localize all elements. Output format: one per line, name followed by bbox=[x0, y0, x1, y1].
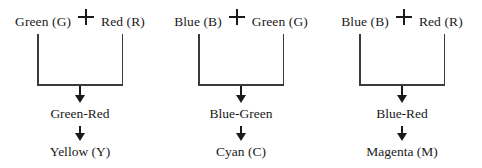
bracket-leg-right bbox=[444, 34, 446, 86]
bracket-leg-left bbox=[37, 34, 39, 86]
plus-icon bbox=[76, 8, 96, 26]
bracket-leg-right bbox=[283, 34, 285, 86]
color-mixing-diagram: Green (G) Red (R) Green-Red Yellow (Y) B… bbox=[0, 0, 482, 168]
arrow-down-icon-to-intermediate bbox=[73, 86, 87, 103]
intermediate-label: Green-Red bbox=[50, 105, 109, 123]
bracket-leg-left bbox=[198, 34, 200, 86]
inputs-row: Blue (B) Red (R) bbox=[341, 8, 463, 34]
result-label: Cyan (C) bbox=[216, 143, 266, 161]
arrow-head bbox=[236, 95, 246, 103]
plus-icon bbox=[394, 8, 414, 26]
arrow-down-icon-to-result bbox=[234, 126, 248, 142]
arrow-down-icon-to-intermediate bbox=[395, 86, 409, 103]
bracket-leg-right bbox=[122, 34, 124, 86]
arrow-down-icon-to-intermediate bbox=[234, 86, 248, 103]
merge-bracket bbox=[0, 34, 160, 86]
input-label-right: Red (R) bbox=[419, 13, 463, 31]
input-label-right: Red (R) bbox=[101, 13, 145, 31]
color-mix-group-blue-red-magenta: Blue (B) Red (R) Blue-Red Magenta (M) bbox=[322, 0, 482, 168]
inputs-row: Blue (B) Green (G) bbox=[174, 8, 308, 34]
input-label-left: Blue (B) bbox=[341, 13, 389, 31]
arrow-down-icon-to-result bbox=[395, 126, 409, 142]
merge-bracket bbox=[322, 34, 482, 86]
inputs-row: Green (G) Red (R) bbox=[15, 8, 145, 34]
arrow-head bbox=[75, 133, 85, 141]
bracket-leg-left bbox=[359, 34, 361, 86]
arrow-head bbox=[75, 95, 85, 103]
merge-bracket bbox=[161, 34, 321, 86]
input-label-left: Green (G) bbox=[15, 13, 71, 31]
plus-icon bbox=[227, 8, 247, 26]
result-label: Magenta (M) bbox=[366, 143, 438, 161]
color-mix-group-green-red-yellow: Green (G) Red (R) Green-Red Yellow (Y) bbox=[0, 0, 160, 168]
input-label-right: Green (G) bbox=[252, 13, 308, 31]
intermediate-label: Blue-Green bbox=[210, 105, 273, 123]
input-label-left: Blue (B) bbox=[174, 13, 222, 31]
arrow-head bbox=[397, 133, 407, 141]
arrow-head bbox=[397, 95, 407, 103]
arrow-head bbox=[236, 133, 246, 141]
result-label: Yellow (Y) bbox=[50, 143, 111, 161]
arrow-down-icon-to-result bbox=[73, 126, 87, 142]
color-mix-group-blue-green-cyan: Blue (B) Green (G) Blue-Green Cyan (C) bbox=[161, 0, 321, 168]
intermediate-label: Blue-Red bbox=[376, 105, 428, 123]
